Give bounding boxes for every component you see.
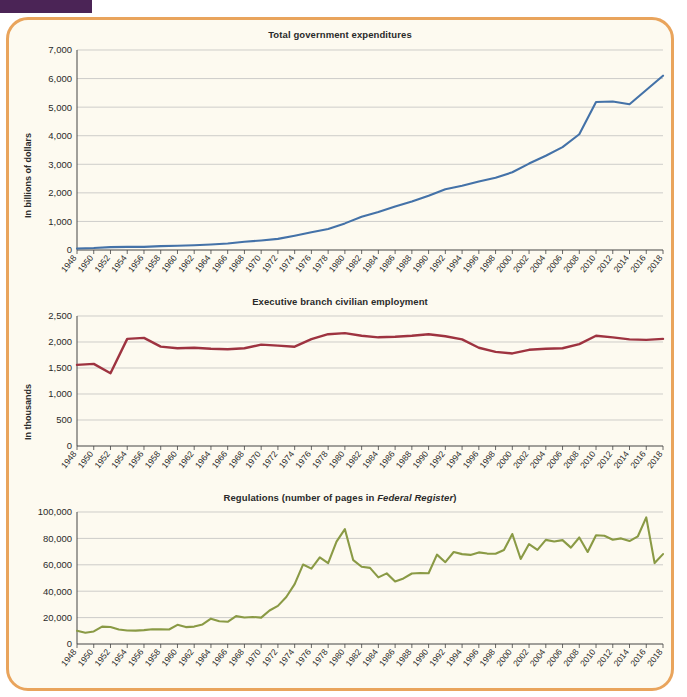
svg-text:1976: 1976 (293, 253, 313, 274)
svg-text:1950: 1950 (76, 647, 96, 668)
svg-text:1976: 1976 (293, 647, 313, 668)
svg-text:1992: 1992 (427, 647, 447, 668)
svg-text:2010: 2010 (578, 647, 598, 668)
svg-text:1998: 1998 (477, 647, 497, 668)
svg-text:2018: 2018 (645, 449, 665, 470)
panel-1-svg: 01,0002,0003,0004,0005,0006,0007,0001948… (9, 42, 674, 292)
panel-2-svg: 05001,0001,5002,0002,5001948195019521954… (9, 310, 674, 488)
svg-text:1952: 1952 (92, 449, 112, 470)
panel-1-title: Total government expenditures (9, 20, 671, 40)
svg-text:2012: 2012 (595, 449, 615, 470)
panel-3-title-prefix: Regulations (number of pages in (224, 492, 378, 503)
svg-text:1996: 1996 (461, 647, 481, 668)
svg-text:1966: 1966 (210, 647, 230, 668)
svg-text:1990: 1990 (411, 253, 431, 274)
svg-text:1,000: 1,000 (48, 388, 72, 399)
svg-text:2006: 2006 (544, 647, 564, 668)
svg-text:1952: 1952 (92, 253, 112, 274)
svg-text:1958: 1958 (143, 647, 163, 668)
svg-text:1982: 1982 (344, 449, 364, 470)
svg-text:1992: 1992 (427, 449, 447, 470)
svg-text:2012: 2012 (595, 647, 615, 668)
svg-text:1964: 1964 (193, 647, 213, 668)
svg-text:2012: 2012 (595, 253, 615, 274)
panel-total-government-expenditures: Total government expenditures In billion… (9, 20, 671, 292)
svg-text:1,500: 1,500 (48, 362, 72, 373)
panel-3-title-suffix: ) (453, 492, 456, 503)
svg-text:1970: 1970 (243, 647, 263, 668)
svg-text:1952: 1952 (92, 647, 112, 668)
svg-text:1978: 1978 (310, 253, 330, 274)
svg-text:2008: 2008 (561, 647, 581, 668)
svg-text:1974: 1974 (277, 647, 297, 668)
svg-text:1960: 1960 (159, 253, 179, 274)
panel-1-y-ticks (31, 42, 77, 250)
svg-text:1978: 1978 (310, 647, 330, 668)
svg-text:1948: 1948 (59, 647, 79, 668)
svg-text:1954: 1954 (109, 253, 129, 274)
svg-text:1966: 1966 (210, 253, 230, 274)
panel-2-y-axis-label: In thousands (23, 384, 33, 440)
svg-text:1990: 1990 (411, 449, 431, 470)
svg-text:1974: 1974 (277, 253, 297, 274)
svg-text:1982: 1982 (344, 647, 364, 668)
panel-3-svg: 020,00040,00060,00080,000100,00019481950… (9, 506, 674, 688)
svg-text:1972: 1972 (260, 647, 280, 668)
svg-text:2016: 2016 (628, 449, 648, 470)
svg-text:1986: 1986 (377, 253, 397, 274)
svg-text:500: 500 (56, 414, 72, 425)
svg-text:2014: 2014 (611, 449, 631, 470)
panel-2-title: Executive branch civilian employment (9, 292, 671, 307)
svg-text:1968: 1968 (226, 449, 246, 470)
svg-text:1984: 1984 (360, 449, 380, 470)
svg-text:1972: 1972 (260, 253, 280, 274)
svg-text:2004: 2004 (528, 253, 548, 274)
svg-text:1950: 1950 (76, 253, 96, 274)
svg-text:100,000: 100,000 (38, 506, 72, 517)
svg-text:2006: 2006 (544, 253, 564, 274)
svg-text:1988: 1988 (394, 253, 414, 274)
svg-text:1962: 1962 (176, 449, 196, 470)
svg-text:80,000: 80,000 (43, 533, 72, 544)
svg-text:2010: 2010 (578, 253, 598, 274)
svg-text:2014: 2014 (611, 253, 631, 274)
svg-text:1958: 1958 (143, 449, 163, 470)
svg-text:2008: 2008 (561, 449, 581, 470)
svg-text:2018: 2018 (645, 253, 665, 274)
svg-text:1980: 1980 (327, 647, 347, 668)
panel-3-title-italic: Federal Register (377, 492, 453, 503)
svg-text:1984: 1984 (360, 647, 380, 668)
panel-1-plot: In billions of dollars 01,0002,0003,0004… (9, 42, 671, 292)
svg-text:1960: 1960 (159, 647, 179, 668)
panel-executive-branch-civilian-employment: Executive branch civilian employment In … (9, 292, 671, 488)
svg-text:1988: 1988 (394, 449, 414, 470)
svg-text:1998: 1998 (477, 449, 497, 470)
svg-text:1956: 1956 (126, 253, 146, 274)
svg-text:2000: 2000 (494, 449, 514, 470)
svg-text:1988: 1988 (394, 647, 414, 668)
svg-text:1966: 1966 (210, 449, 230, 470)
svg-text:1960: 1960 (159, 449, 179, 470)
panel-2-plot: In thousands 05001,0001,5002,0002,500194… (9, 310, 671, 488)
svg-text:1976: 1976 (293, 449, 313, 470)
svg-text:2014: 2014 (611, 647, 631, 668)
svg-text:1956: 1956 (126, 449, 146, 470)
svg-text:1978: 1978 (310, 449, 330, 470)
svg-text:1964: 1964 (193, 253, 213, 274)
svg-text:2004: 2004 (528, 647, 548, 668)
panel-regulations: Regulations (number of pages in Federal … (9, 488, 671, 688)
svg-text:1984: 1984 (360, 253, 380, 274)
svg-text:2006: 2006 (544, 449, 564, 470)
header-tab-block (0, 0, 92, 13)
svg-text:1982: 1982 (344, 253, 364, 274)
svg-text:2004: 2004 (528, 449, 548, 470)
svg-text:1992: 1992 (427, 253, 447, 274)
svg-text:2,000: 2,000 (48, 336, 72, 347)
svg-text:60,000: 60,000 (43, 559, 72, 570)
svg-text:1996: 1996 (461, 449, 481, 470)
svg-text:1994: 1994 (444, 253, 464, 274)
svg-text:1996: 1996 (461, 253, 481, 274)
svg-text:2002: 2002 (511, 449, 531, 470)
svg-text:1994: 1994 (444, 449, 464, 470)
svg-text:1964: 1964 (193, 449, 213, 470)
